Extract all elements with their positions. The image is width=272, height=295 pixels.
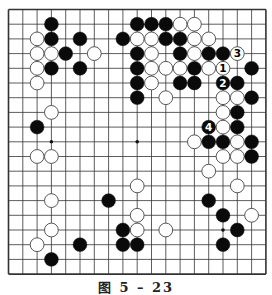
black-stone — [159, 17, 173, 31]
white-stone — [145, 47, 159, 61]
white-stone — [188, 17, 202, 31]
white-stone — [45, 194, 59, 208]
black-stone — [173, 76, 187, 90]
black-stone — [216, 208, 230, 222]
black-stone — [73, 32, 87, 46]
black-stone — [202, 135, 216, 149]
white-stone — [145, 32, 159, 46]
black-stone — [230, 76, 244, 90]
black-stone — [130, 17, 144, 31]
black-stone — [216, 47, 230, 61]
black-stone — [102, 194, 116, 208]
black-stone — [216, 135, 230, 149]
black-stone — [30, 120, 44, 134]
white-stone — [216, 120, 230, 134]
white-stone — [45, 223, 59, 237]
white-stone — [202, 61, 216, 75]
white-stone — [159, 61, 173, 75]
black-stone — [202, 194, 216, 208]
white-stone — [230, 179, 244, 193]
black-stone — [116, 238, 130, 252]
white-stone — [159, 223, 173, 237]
white-stone — [30, 76, 44, 90]
star-point — [221, 228, 225, 232]
white-stone — [188, 47, 202, 61]
white-stone — [130, 32, 144, 46]
white-stone — [216, 91, 230, 105]
white-stone — [216, 150, 230, 164]
white-stone — [188, 32, 202, 46]
black-stone — [45, 32, 59, 46]
white-stone — [230, 135, 244, 149]
black-stone — [130, 61, 144, 75]
black-stone — [45, 61, 59, 75]
black-stone — [230, 106, 244, 120]
white-stone — [188, 135, 202, 149]
white-stone — [145, 76, 159, 90]
white-stone — [30, 47, 44, 61]
black-stone — [245, 91, 259, 105]
black-stone — [145, 17, 159, 31]
star-point — [135, 140, 139, 144]
white-stone — [45, 47, 59, 61]
go-board-diagram: 3124 — [0, 0, 272, 282]
black-stone — [116, 32, 130, 46]
black-stone — [173, 47, 187, 61]
black-stone — [188, 61, 202, 75]
black-stone — [59, 47, 73, 61]
black-stone — [245, 61, 259, 75]
white-stone — [159, 91, 173, 105]
star-point — [50, 140, 54, 144]
white-stone — [216, 106, 230, 120]
white-stone — [202, 164, 216, 178]
move-number-label: 4 — [205, 121, 212, 133]
move-number-label: 2 — [219, 77, 226, 89]
black-stone — [73, 61, 87, 75]
white-stone — [230, 91, 244, 105]
go-board: 3124 — [0, 0, 272, 282]
black-stone — [130, 238, 144, 252]
white-stone — [130, 208, 144, 222]
white-stone — [30, 238, 44, 252]
black-stone — [173, 32, 187, 46]
white-stone — [130, 179, 144, 193]
black-stone — [73, 238, 87, 252]
white-stone — [30, 61, 44, 75]
figure-caption: 图 5 – 23 — [0, 281, 272, 295]
white-stone — [230, 150, 244, 164]
black-stone — [45, 17, 59, 31]
black-stone — [130, 76, 144, 90]
black-stone — [202, 47, 216, 61]
black-stone — [45, 253, 59, 267]
white-stone — [145, 61, 159, 75]
white-stone — [245, 208, 259, 222]
black-stone — [130, 91, 144, 105]
white-stone — [30, 150, 44, 164]
white-stone — [173, 17, 187, 31]
white-stone — [173, 61, 187, 75]
white-stone — [87, 47, 101, 61]
black-stone — [230, 120, 244, 134]
white-stone — [45, 150, 59, 164]
black-stone — [188, 76, 202, 90]
white-stone — [202, 32, 216, 46]
black-stone — [159, 32, 173, 46]
black-stone — [230, 223, 244, 237]
black-stone — [130, 47, 144, 61]
black-stone — [245, 150, 259, 164]
black-stone — [216, 238, 230, 252]
white-stone — [130, 223, 144, 237]
white-stone — [30, 32, 44, 46]
black-stone — [245, 135, 259, 149]
move-number-label: 3 — [234, 47, 241, 59]
white-stone — [45, 106, 59, 120]
black-stone — [116, 223, 130, 237]
move-number-label: 1 — [219, 62, 226, 74]
